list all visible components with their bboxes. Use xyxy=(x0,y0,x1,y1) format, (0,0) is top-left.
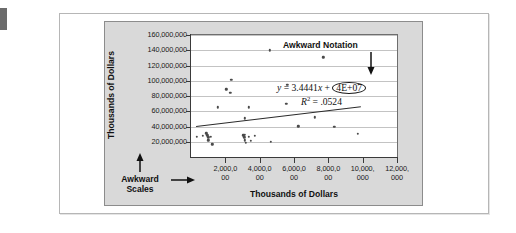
arrow-up-to-yaxis xyxy=(137,153,144,172)
chart-panel: Thousands of Dollars 160,000,000140,000,… xyxy=(104,21,423,206)
arrow-down-to-notation xyxy=(368,52,375,75)
figure-box: Thousands of Dollars 160,000,000140,000,… xyxy=(59,13,489,214)
figure-root: Thousands of Dollars 160,000,000140,000,… xyxy=(0,0,516,233)
callout-arrows xyxy=(105,22,422,205)
arrow-right-to-xaxis xyxy=(171,177,195,184)
page-edge-marker xyxy=(0,8,7,30)
